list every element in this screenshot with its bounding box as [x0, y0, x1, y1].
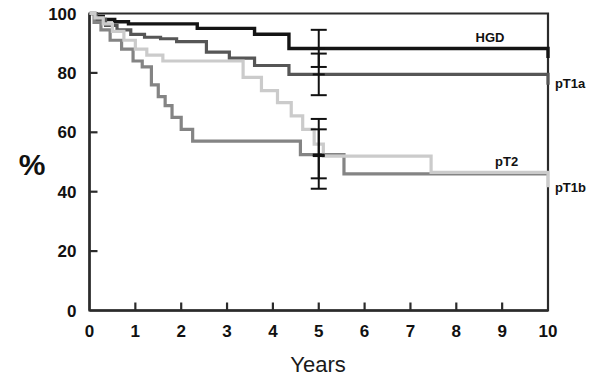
series-label-pt1a: pT1a — [555, 76, 586, 91]
series-label-hgd: HGD — [476, 30, 505, 45]
x-tick-label: 9 — [497, 322, 506, 341]
chart-container: 020406080100 012345678910 HGDpT1apT2pT1b… — [0, 0, 609, 381]
y-tick-label: 20 — [58, 242, 77, 261]
x-tick-label: 10 — [539, 322, 558, 341]
x-tick-label: 3 — [222, 322, 231, 341]
survival-chart-svg: 020406080100 012345678910 HGDpT1apT2pT1b… — [0, 0, 609, 381]
x-tick-label: 2 — [176, 322, 185, 341]
x-tick-label: 6 — [360, 322, 369, 341]
series-label-pt1b: pT1b — [555, 180, 586, 195]
x-tick-label: 4 — [268, 322, 278, 341]
y-tick-label: 0 — [67, 302, 76, 321]
x-tick-label: 8 — [452, 322, 461, 341]
y-tick-label: 80 — [58, 64, 77, 83]
y-axis-title: % — [19, 148, 46, 181]
x-tick-label: 1 — [131, 322, 140, 341]
y-tick-label: 40 — [58, 183, 77, 202]
series-label-pt2: pT2 — [495, 154, 518, 169]
x-tick-label: 5 — [314, 322, 323, 341]
x-axis-title: Years — [290, 352, 345, 377]
y-tick-label: 100 — [48, 5, 76, 24]
y-tick-label: 60 — [58, 123, 77, 142]
x-tick-label: 7 — [406, 322, 415, 341]
x-tick-label: 0 — [85, 322, 94, 341]
